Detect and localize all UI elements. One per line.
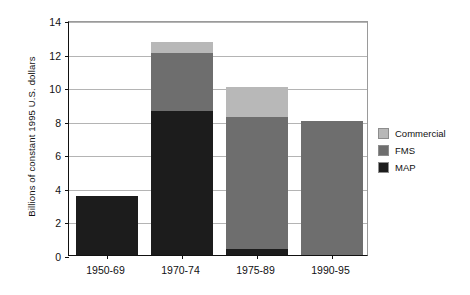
y-axis-tick-label: 8 [55, 117, 61, 129]
bar-segment-fms [151, 53, 213, 111]
legend-item-label: Commercial [395, 129, 446, 139]
x-axis-label-1950-69: 1950-69 [66, 264, 146, 276]
legend-item-label: MAP [395, 163, 416, 173]
legend-item-commercial[interactable]: Commercial [378, 126, 446, 141]
x-axis-tick-mark [182, 255, 183, 259]
y-axis-tick-label: 10 [49, 83, 61, 95]
y-axis-tick-label: 6 [55, 150, 61, 162]
bar-segment-map [76, 196, 138, 255]
legend-swatch-icon [378, 145, 389, 156]
bar-stack-1970-74 [151, 42, 213, 255]
y-axis-tick-label: 14 [49, 16, 61, 28]
bar-chart: Billions of constant 1995 U.S. dollars 0… [0, 0, 470, 295]
y-axis-tick-label: 2 [55, 217, 61, 229]
x-axis-tick-mark [257, 255, 258, 259]
bar-segment-commercial [151, 42, 213, 53]
bar-segment-commercial [226, 87, 288, 117]
bar-stack-1990-95 [301, 121, 363, 255]
legend-swatch-icon [378, 128, 389, 139]
x-axis-tick-mark [107, 255, 108, 259]
bar-stack-1950-69 [76, 196, 138, 255]
bar-stack-1975-89 [226, 87, 288, 255]
x-axis-label-1975-89: 1975-89 [216, 264, 296, 276]
y-axis-tick-label: 0 [55, 251, 61, 263]
bar-segment-map [151, 111, 213, 255]
legend: CommercialFMSMAP [378, 126, 446, 177]
x-axis-label-1990-95: 1990-95 [291, 264, 371, 276]
y-axis-tick-mark [65, 257, 69, 258]
legend-item-map[interactable]: MAP [378, 160, 446, 175]
plot-area: 02468101214 [68, 21, 368, 256]
legend-item-label: FMS [395, 146, 415, 156]
y-axis-title: Billions of constant 1995 U.S. dollars [26, 12, 37, 262]
x-axis-label-1970-74: 1970-74 [141, 264, 221, 276]
bar-segment-fms [301, 121, 363, 255]
x-axis-tick-mark [332, 255, 333, 259]
bar-segment-fms [226, 117, 288, 249]
legend-item-fms[interactable]: FMS [378, 143, 446, 158]
bar-series-container [69, 22, 367, 255]
legend-swatch-icon [378, 162, 389, 173]
y-axis-tick-label: 12 [49, 50, 61, 62]
y-axis-tick-label: 4 [55, 184, 61, 196]
